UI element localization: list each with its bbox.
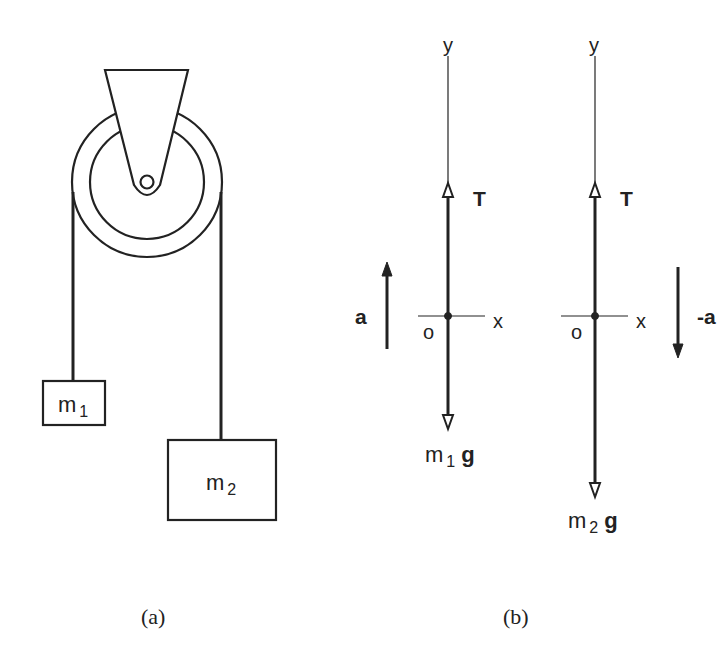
accel-arrowhead-1	[382, 262, 392, 276]
origin-dot-1	[445, 313, 452, 320]
pulley-system	[43, 70, 276, 520]
x-axis-label-2: x	[636, 310, 646, 332]
tension-label-1: T	[473, 187, 486, 210]
y-axis-label-1: y	[443, 34, 453, 56]
origin-label-2: o	[571, 321, 582, 343]
x-axis-label-1: x	[493, 310, 503, 332]
y-axis-label-2: y	[589, 34, 599, 56]
pulley-axle	[141, 176, 154, 189]
origin-dot-2	[592, 313, 599, 320]
accel-label-1: a	[355, 305, 367, 328]
weight-arrowhead-1	[443, 415, 453, 429]
origin-label-1: o	[423, 321, 434, 343]
tension-arrowhead-2	[590, 183, 600, 197]
free-body-diagram-1	[382, 56, 485, 429]
free-body-diagram-2	[561, 56, 683, 497]
caption-a: (a)	[141, 604, 165, 629]
weight-arrowhead-2	[590, 483, 600, 497]
accel-label-2: -a	[697, 305, 716, 328]
weight-label-2: m2g	[568, 508, 618, 536]
weight-label-1: m1g	[425, 442, 475, 470]
tension-arrowhead-1	[443, 183, 453, 197]
caption-b: (b)	[503, 604, 529, 629]
tension-label-2: T	[620, 187, 633, 210]
accel-arrowhead-2	[673, 344, 683, 358]
atwood-machine-figure: m1 m2 (a) y x o T a m1g y x o T -a m2g (…	[0, 0, 724, 662]
